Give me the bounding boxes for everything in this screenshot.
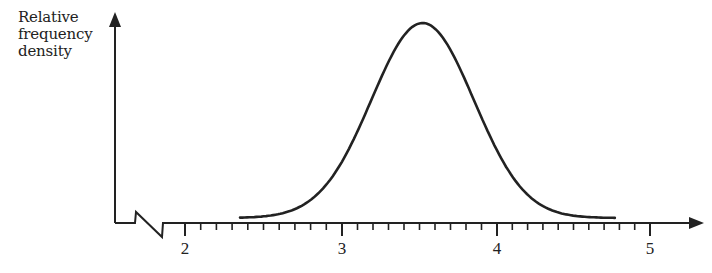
y-axis: [109, 12, 121, 223]
distribution-curve: [240, 23, 615, 218]
chart-canvas: 2345: [0, 0, 712, 273]
x-axis: 2345: [163, 217, 704, 258]
x-tick-label: 4: [493, 239, 502, 258]
x-axis-arrow-icon: [689, 217, 704, 229]
y-axis-arrow-icon: [109, 12, 121, 27]
x-tick-label: 2: [181, 239, 190, 258]
x-axis-ticks: [185, 223, 650, 236]
axis-break: [115, 212, 168, 237]
x-tick-label: 5: [646, 239, 655, 258]
x-axis-tick-labels: 2345: [181, 239, 655, 258]
x-tick-label: 3: [338, 239, 347, 258]
